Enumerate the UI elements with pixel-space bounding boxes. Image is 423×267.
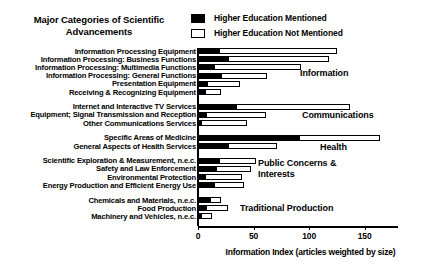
category-label: Scientific Exploration & Measurement, n.… — [43, 157, 196, 164]
category-label: Information Processing Equipment — [75, 48, 196, 55]
x-axis-line — [198, 226, 398, 228]
bar-segment-not-mentioned — [207, 81, 240, 87]
bar-segment-not-mentioned — [205, 89, 222, 95]
category-label: Safety and Law Enforcement — [96, 165, 196, 172]
category-label: Environmental Protection — [107, 174, 196, 181]
bar-segment-not-mentioned — [214, 64, 302, 70]
bar-segment-mentioned — [198, 81, 207, 87]
bar-segment-mentioned — [198, 158, 219, 164]
bar-segment-not-mentioned — [228, 143, 277, 149]
category-label: Internet and Interactive TV Services — [73, 103, 196, 110]
bar-segment-mentioned — [198, 104, 236, 110]
bar-segment-mentioned — [198, 166, 216, 172]
category-label: Other Communications Services — [83, 120, 196, 127]
legend-swatch-hollow — [191, 29, 205, 38]
category-label: Machinery and Vehicles, n.e.c. — [91, 213, 196, 220]
bar-segment-mentioned — [198, 48, 219, 54]
x-tick-label-100: 100 — [302, 231, 316, 241]
category-label: Information Processing: General Function… — [46, 72, 196, 79]
category-label: Equipment; Signal Transmission and Recep… — [30, 111, 196, 118]
chart-row: Safety and Law Enforcement — [0, 166, 423, 172]
chart-row: Food Production — [0, 205, 423, 211]
bar-segment-mentioned — [198, 89, 205, 95]
group-label: Traditional Production — [240, 203, 333, 213]
page-title-line-2: Advancements — [10, 26, 188, 38]
chart-row: Environmental Protection — [0, 174, 423, 180]
x-axis-label: Information Index (articles weighted by … — [198, 247, 423, 257]
bar-segment-not-mentioned — [299, 135, 380, 141]
category-label: Presentation Equipment — [112, 80, 196, 87]
chart-row: Specific Areas of Medicine — [0, 135, 423, 141]
page-title: Major Categories of Scientific Advanceme… — [10, 14, 188, 38]
group-label: Communications — [302, 110, 374, 120]
bar-segment-mentioned — [198, 112, 206, 118]
bar-segment-not-mentioned — [201, 120, 247, 126]
chart-legend: Higher Education MentionedHigher Educati… — [191, 12, 343, 42]
chart-row: Chemicals and Materials, n.e.c. — [0, 197, 423, 203]
chart-row: Scientific Exploration & Measurement, n.… — [0, 158, 423, 164]
group-label: Interests — [258, 169, 295, 179]
bar-segment-mentioned — [198, 197, 210, 203]
bar-segment-not-mentioned — [206, 112, 266, 118]
bar-segment-not-mentioned — [206, 205, 228, 211]
category-label: Energy Production and Efficient Energy U… — [43, 182, 196, 189]
category-label: Information Processing: Multimedia Funct… — [35, 64, 196, 71]
category-label: General Aspects of Health Services — [73, 143, 196, 150]
bar-segment-mentioned — [198, 73, 221, 79]
chart-row: Information Processing: Multimedia Funct… — [0, 64, 423, 70]
x-tick-100 — [309, 226, 310, 230]
chart-row: Information Processing: General Function… — [0, 73, 423, 79]
group-label: Health — [320, 142, 347, 152]
chart-row: Machinery and Vehicles, n.e.c. — [0, 213, 423, 219]
bar-segment-not-mentioned — [205, 174, 243, 180]
category-label: Information Processing: Business Functio… — [41, 56, 196, 63]
group-label: Information — [300, 68, 348, 78]
bar-segment-not-mentioned — [236, 104, 350, 110]
bar-chart: Major Categories of Scientific Advanceme… — [0, 0, 423, 267]
bar-segment-not-mentioned — [214, 182, 244, 188]
bar-segment-not-mentioned — [219, 48, 337, 54]
bar-segment-mentioned — [198, 182, 214, 188]
x-tick-50 — [254, 226, 255, 230]
bar-segment-mentioned — [198, 205, 206, 211]
chart-row: Information Processing: Business Functio… — [0, 56, 423, 62]
legend-label: Higher Education Not Mentioned — [214, 28, 343, 38]
bar-segment-not-mentioned — [210, 197, 221, 203]
page-title-line-1: Major Categories of Scientific — [10, 14, 188, 26]
chart-row: Internet and Interactive TV Services — [0, 104, 423, 110]
bar-segment-mentioned — [198, 56, 228, 62]
x-tick-0 — [198, 226, 199, 230]
bar-segment-not-mentioned — [221, 73, 267, 79]
legend-item-1: Higher Education Mentioned — [191, 12, 343, 24]
group-label: Public Concerns & — [258, 158, 336, 168]
x-tick-150 — [365, 226, 366, 230]
bar-segment-mentioned — [198, 143, 228, 149]
category-label: Food Production — [138, 205, 197, 212]
chart-row: Other Communications Services — [0, 120, 423, 126]
x-tick-label-0: 0 — [196, 231, 201, 241]
bar-segment-mentioned — [198, 135, 299, 141]
chart-row: Information Processing Equipment — [0, 48, 423, 54]
category-label: Chemicals and Materials, n.e.c. — [88, 197, 196, 204]
category-label: Receiving & Recognizing Equipment — [69, 89, 196, 96]
x-tick-label-50: 50 — [249, 231, 258, 241]
chart-row: General Aspects of Health Services — [0, 143, 423, 149]
chart-row: Energy Production and Efficient Energy U… — [0, 182, 423, 188]
bar-segment-not-mentioned — [228, 56, 329, 62]
legend-item-2: Higher Education Not Mentioned — [191, 27, 343, 39]
bar-segment-not-mentioned — [216, 166, 252, 172]
bar-segment-mentioned — [198, 64, 214, 70]
chart-row: Presentation Equipment — [0, 81, 423, 87]
category-label: Specific Areas of Medicine — [104, 134, 196, 141]
legend-swatch-filled — [191, 14, 205, 23]
bar-segment-mentioned — [198, 174, 205, 180]
legend-label: Higher Education Mentioned — [214, 13, 327, 23]
chart-row: Receiving & Recognizing Equipment — [0, 89, 423, 95]
bar-segment-not-mentioned — [219, 158, 256, 164]
bar-segment-not-mentioned — [201, 213, 212, 219]
x-tick-label-150: 150 — [358, 231, 372, 241]
